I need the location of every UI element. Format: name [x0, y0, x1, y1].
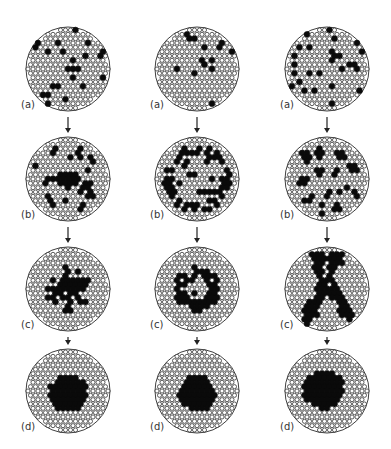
host-atom — [46, 252, 50, 256]
host-atom — [155, 389, 159, 393]
host-atom — [325, 32, 329, 36]
host-atom — [58, 190, 62, 194]
host-atom — [287, 393, 291, 397]
host-atom — [63, 71, 67, 75]
host-atom — [78, 309, 82, 313]
host-atom — [36, 203, 40, 207]
host-atom — [46, 354, 50, 358]
host-atom — [300, 406, 304, 410]
host-atom — [217, 419, 221, 423]
host-atom — [185, 76, 189, 80]
host-atom — [93, 80, 97, 84]
host-atom — [78, 359, 82, 363]
host-atom — [101, 278, 105, 282]
host-atom — [96, 389, 100, 393]
host-atom — [33, 411, 37, 415]
host-atom — [61, 151, 65, 155]
host-atom — [190, 313, 194, 317]
host-atom — [315, 58, 319, 62]
host-atom — [61, 354, 65, 358]
host-atom — [192, 359, 196, 363]
host-atom — [68, 97, 72, 101]
host-atom — [76, 354, 80, 358]
host-atom — [360, 372, 364, 376]
host-atom — [307, 402, 311, 406]
host-atom — [63, 28, 67, 32]
arrowhead-icon — [324, 238, 330, 243]
host-atom — [31, 194, 35, 198]
host-atom — [56, 102, 60, 106]
host-atom — [177, 54, 181, 58]
host-atom — [205, 363, 209, 367]
host-atom — [43, 71, 47, 75]
host-atom — [180, 406, 184, 410]
host-atom — [160, 160, 164, 164]
host-atom — [96, 177, 100, 181]
host-atom — [180, 50, 184, 54]
host-atom — [88, 80, 92, 84]
host-atom — [225, 93, 229, 97]
host-atom — [177, 402, 181, 406]
host-atom — [185, 93, 189, 97]
host-atom — [295, 84, 299, 88]
host-atom — [86, 424, 90, 428]
host-atom — [162, 283, 166, 287]
host-atom — [302, 97, 306, 101]
host-atom — [350, 398, 354, 402]
host-atom — [58, 138, 62, 142]
host-atom — [205, 84, 209, 88]
host-atom — [197, 248, 201, 252]
host-atom — [345, 203, 349, 207]
host-atom — [185, 186, 189, 190]
host-atom — [355, 270, 359, 274]
host-atom — [96, 415, 100, 419]
host-atom — [290, 168, 294, 172]
host-atom — [327, 207, 331, 211]
host-atom — [345, 177, 349, 181]
host-atom — [305, 424, 309, 428]
host-atom — [312, 37, 316, 41]
host-atom — [215, 76, 219, 80]
host-atom — [330, 354, 334, 358]
host-atom — [300, 67, 304, 71]
host-atom — [93, 45, 97, 49]
host-atom — [200, 194, 204, 198]
host-atom — [28, 402, 32, 406]
host-atom — [63, 106, 67, 110]
host-atom — [212, 89, 216, 93]
host-atom — [345, 93, 349, 97]
host-atom — [197, 97, 201, 101]
host-atom — [162, 411, 166, 415]
host-atom — [200, 160, 204, 164]
host-atom — [28, 274, 32, 278]
host-atom — [48, 402, 52, 406]
host-atom — [355, 50, 359, 54]
host-atom — [103, 283, 107, 287]
host-atom — [86, 363, 90, 367]
host-atom — [187, 207, 191, 211]
panel-col3-d — [285, 349, 369, 433]
host-atom — [180, 261, 184, 265]
host-atom — [355, 287, 359, 291]
host-atom — [225, 160, 229, 164]
host-atom — [170, 415, 174, 419]
host-atom — [43, 155, 47, 159]
host-atom — [225, 415, 229, 419]
host-atom — [322, 428, 326, 432]
host-atom — [101, 270, 105, 274]
host-atom — [350, 406, 354, 410]
host-atom — [91, 372, 95, 376]
host-atom — [292, 411, 296, 415]
host-atom — [26, 389, 30, 393]
host-atom — [332, 326, 336, 330]
stage-label-c: (c) — [150, 319, 163, 330]
host-atom — [180, 41, 184, 45]
host-atom — [180, 76, 184, 80]
host-atom — [290, 398, 294, 402]
host-atom — [315, 203, 319, 207]
host-atom — [185, 84, 189, 88]
host-atom — [93, 291, 97, 295]
host-atom — [355, 363, 359, 367]
host-atom — [342, 411, 346, 415]
host-atom — [73, 80, 77, 84]
